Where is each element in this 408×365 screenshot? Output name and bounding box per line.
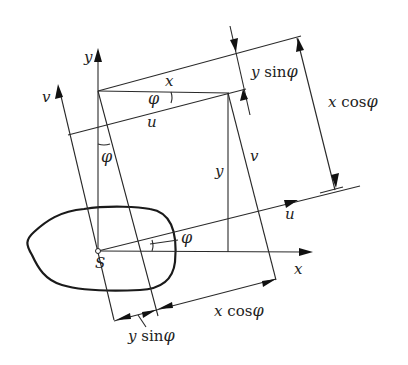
xcos-right-dimension — [297, 38, 335, 190]
y-segment-label: y — [215, 164, 223, 179]
u-axis — [98, 186, 360, 251]
body-outline — [27, 207, 175, 291]
ysin-top-arrow-down — [230, 38, 238, 52]
rotation-diagram: y v x u x u y v φ φ φ S y sinφ x cosφ y … — [0, 0, 408, 365]
phi-label-top: φ — [148, 91, 159, 107]
x-axis — [98, 251, 305, 252]
u-segment-label: u — [147, 115, 157, 130]
phi-label-right: φ — [181, 230, 192, 246]
u-axis-label: u — [285, 207, 295, 222]
angle-arc-left — [98, 144, 110, 145]
v-axis-label: v — [42, 90, 50, 105]
xcos-bottom-label: x cosφ — [214, 303, 264, 319]
angle-arc-top — [171, 92, 172, 103]
angle-arc-right — [152, 240, 153, 251]
x-axis-arrowhead — [299, 248, 313, 256]
x-segment-label: x — [165, 74, 173, 89]
bottom-arrow-left — [116, 313, 131, 320]
diagram-svg — [0, 0, 408, 365]
xcos-right-label: x cosφ — [328, 94, 378, 110]
v-axis-arrowhead — [55, 84, 63, 99]
bottom-arrow-right — [262, 279, 276, 287]
y-axis-label: y — [84, 50, 92, 65]
origin-label: S — [95, 256, 105, 271]
bottom-arrow-mid1 — [142, 310, 156, 318]
phi-label-left: φ — [101, 149, 112, 165]
v-segment-label: v — [250, 149, 258, 164]
ysin-bottom-label: y sinφ — [128, 328, 175, 344]
origin-point — [96, 249, 101, 254]
xcos-right-tick — [320, 187, 343, 193]
phi-right-leader — [150, 240, 178, 244]
ysin-top-label: y sinφ — [251, 64, 298, 80]
y-axis-arrowhead — [94, 48, 102, 62]
x-axis-label: x — [294, 262, 302, 277]
x-projection-line — [98, 91, 229, 93]
bottom-arrow-mid2 — [158, 302, 173, 309]
